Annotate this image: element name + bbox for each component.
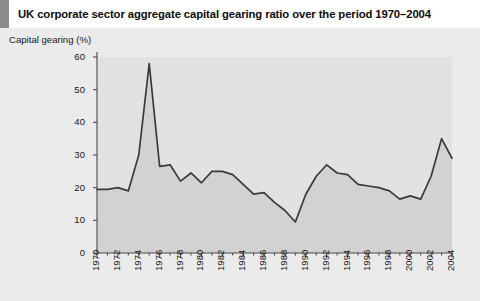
page-title: UK corporate sector aggregate capital ge…: [9, 8, 431, 20]
y-tick-label: 20: [57, 182, 85, 193]
x-tick-label: 1972: [111, 250, 122, 271]
x-tick-label: 1980: [194, 250, 205, 271]
y-tick-label: 60: [57, 51, 85, 62]
x-tick-label: 1978: [174, 250, 185, 271]
y-tick-label: 40: [57, 116, 85, 127]
x-tick-label: 1992: [320, 250, 331, 271]
x-tick-label: 1996: [361, 250, 372, 271]
x-tick-label: 1970: [90, 250, 101, 271]
title-accent-bar: [0, 0, 9, 28]
x-tick-label: 2004: [445, 250, 456, 271]
x-tick-label: 2000: [403, 250, 414, 271]
x-tick-label: 1984: [236, 250, 247, 271]
x-tick-label: 1994: [341, 250, 352, 271]
x-tick-label: 1976: [153, 250, 164, 271]
x-tick-label: 1998: [382, 250, 393, 271]
chart-title-band: UK corporate sector aggregate capital ge…: [0, 0, 480, 28]
x-axis-ticks: [97, 253, 452, 258]
x-tick-label: 1986: [257, 250, 268, 271]
x-tick-label: 1988: [278, 250, 289, 271]
y-tick-label: 10: [57, 214, 85, 225]
x-tick-label: 1974: [132, 250, 143, 271]
x-tick-label: 1990: [299, 250, 310, 271]
area-fill-path: [97, 64, 452, 253]
y-tick-label: 30: [57, 149, 85, 160]
data-series-layer: [97, 64, 452, 253]
x-tick-label: 1982: [215, 250, 226, 271]
y-tick-label: 50: [57, 84, 85, 95]
chart-figure: Capital gearing (%) 0102030405060 197019…: [0, 28, 480, 301]
y-axis-ticks: [93, 57, 97, 253]
x-tick-label: 2002: [424, 250, 435, 271]
y-tick-label: 0: [57, 247, 85, 258]
